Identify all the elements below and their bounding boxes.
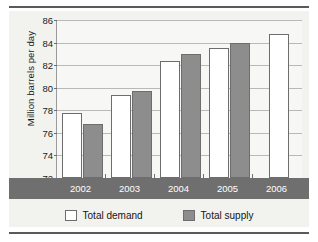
top-divider-rule (9, 6, 309, 8)
bar-supply-2002 (83, 124, 103, 178)
x-tick-mark (105, 174, 106, 178)
legend-swatch-supply-icon (183, 210, 195, 221)
bar-demand-2006 (269, 34, 289, 178)
y-tick-mark (54, 88, 57, 89)
y-tick-mark (54, 133, 57, 134)
x-tick-label-2006: 2006 (266, 183, 287, 194)
legend-swatch-demand-icon (65, 210, 77, 221)
legend-label: Total demand (83, 210, 143, 221)
x-tick-mark (252, 174, 253, 178)
bar-chart-figure: Million barrels per day 7274767880828486… (0, 0, 318, 242)
bar-series-container (58, 20, 302, 178)
y-tick-label: 84 (42, 37, 53, 48)
y-tick-mark (54, 20, 57, 21)
x-tick-label-2004: 2004 (168, 183, 189, 194)
bar-supply-2003 (132, 91, 152, 178)
bar-supply-2005 (230, 43, 250, 178)
y-tick-mark (54, 43, 57, 44)
legend-label: Total supply (201, 210, 254, 221)
x-tick-mark (203, 174, 204, 178)
x-tick-label-2005: 2005 (217, 183, 238, 194)
bar-demand-2005 (209, 48, 229, 178)
x-axis-band: 20022003200420052006 (9, 178, 309, 199)
y-tick-label: 74 (42, 150, 53, 161)
y-tick-label: 76 (42, 127, 53, 138)
bottom-divider-rule (9, 232, 309, 234)
y-tick-label: 80 (42, 82, 53, 93)
y-tick-label: 78 (42, 105, 53, 116)
y-tick-mark (54, 65, 57, 66)
legend-item-supply[interactable]: Total supply (183, 210, 254, 221)
bar-demand-2003 (111, 95, 131, 179)
legend-item-demand[interactable]: Total demand (65, 210, 143, 221)
bar-demand-2002 (62, 113, 82, 178)
chart-legend: Total demandTotal supply (9, 205, 309, 225)
x-tick-label-2003: 2003 (119, 183, 140, 194)
x-tick-mark (154, 174, 155, 178)
y-tick-mark (54, 110, 57, 111)
bar-supply-2004 (181, 54, 201, 178)
bar-demand-2004 (160, 61, 180, 178)
x-tick-label-2002: 2002 (70, 183, 91, 194)
y-tick-label: 82 (42, 60, 53, 71)
y-tick-label: 86 (42, 15, 53, 26)
y-tick-mark (54, 155, 57, 156)
plot-area: 7274767880828486 (56, 20, 302, 178)
y-axis-title: Million barrels per day (25, 14, 36, 144)
